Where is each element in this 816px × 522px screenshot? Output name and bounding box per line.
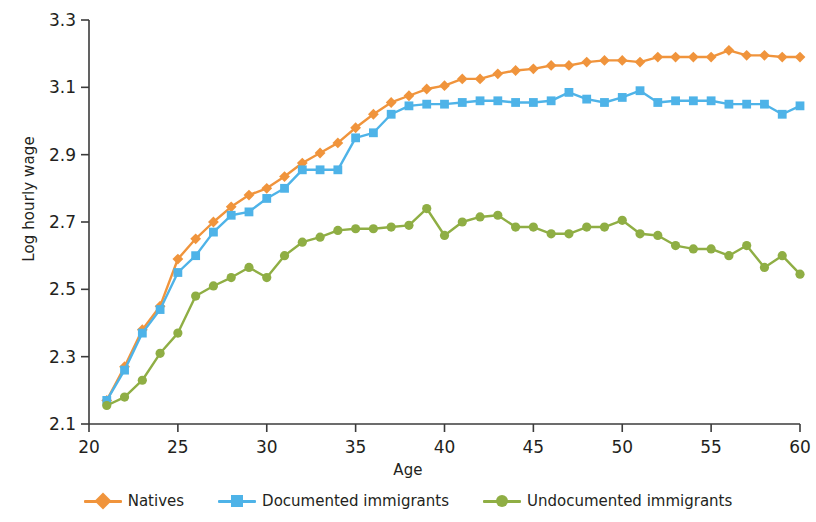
- y-axis-title: Log hourly wage: [20, 104, 38, 294]
- square-marker-icon: [231, 495, 243, 507]
- chart-figure: 2.12.32.52.72.93.13.3202530354045505560 …: [0, 0, 816, 522]
- legend-swatch-undocumented-immigrants: [483, 494, 521, 508]
- legend-label-undocumented-immigrants: Undocumented immigrants: [527, 492, 732, 510]
- svg-text:25: 25: [167, 437, 189, 457]
- svg-text:55: 55: [700, 437, 722, 457]
- legend-item-undocumented-immigrants: Undocumented immigrants: [483, 492, 732, 510]
- legend-item-natives: Natives: [84, 492, 184, 510]
- svg-text:2.7: 2.7: [49, 212, 76, 232]
- legend-swatch-documented-immigrants: [218, 494, 256, 508]
- svg-text:50: 50: [611, 437, 633, 457]
- svg-text:20: 20: [78, 437, 100, 457]
- svg-text:2.1: 2.1: [49, 414, 76, 434]
- circle-marker-icon: [496, 495, 508, 507]
- line-chart-plot: 2.12.32.52.72.93.13.3202530354045505560: [0, 0, 816, 522]
- svg-text:3.3: 3.3: [49, 10, 76, 30]
- svg-text:30: 30: [256, 437, 278, 457]
- svg-text:35: 35: [345, 437, 367, 457]
- svg-text:2.9: 2.9: [49, 145, 76, 165]
- svg-text:45: 45: [523, 437, 545, 457]
- diamond-marker-icon: [94, 493, 111, 510]
- svg-text:2.3: 2.3: [49, 347, 76, 367]
- legend-label-documented-immigrants: Documented immigrants: [262, 492, 449, 510]
- legend-swatch-natives: [84, 494, 122, 508]
- legend-item-documented-immigrants: Documented immigrants: [218, 492, 449, 510]
- svg-text:60: 60: [789, 437, 811, 457]
- svg-text:40: 40: [434, 437, 456, 457]
- svg-text:2.5: 2.5: [49, 279, 76, 299]
- svg-text:3.1: 3.1: [49, 77, 76, 97]
- legend-label-natives: Natives: [128, 492, 184, 510]
- x-axis-title: Age: [0, 461, 816, 479]
- chart-legend: Natives Documented immigrants Undocument…: [0, 492, 816, 510]
